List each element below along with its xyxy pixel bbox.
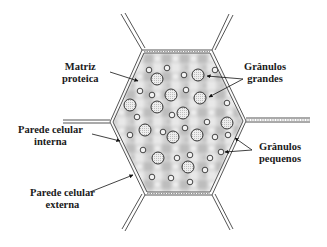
label-parede-externa: Parede celular externa [30,187,95,211]
leader-granulos-pequenos-2 [235,138,252,150]
label-granulos-pequenos: Grânulos pequenos [259,141,301,165]
label-matriz-proteica: Matriz proteica [62,61,99,85]
label-parede-interna: Parede celular interna [18,124,83,148]
label-granulos-grandes: Grânulos grandes [244,61,286,85]
leader-parede-externa [90,175,133,192]
